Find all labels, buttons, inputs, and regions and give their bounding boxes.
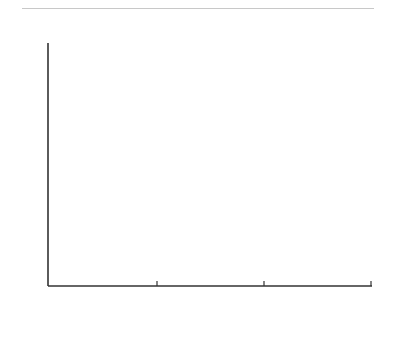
x-axis xyxy=(48,281,372,286)
chart xyxy=(0,0,398,359)
